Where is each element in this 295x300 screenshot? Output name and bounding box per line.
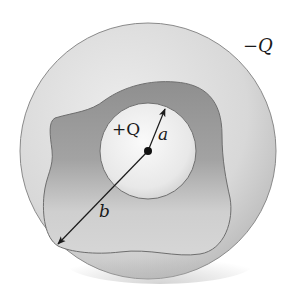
radius-b-label: b <box>99 203 110 220</box>
center-dot <box>144 147 152 155</box>
diagram-canvas: +Q a b −Q <box>0 0 295 300</box>
inner-charge-label: +Q <box>112 121 140 138</box>
outer-charge-label: −Q <box>243 37 273 55</box>
radius-a-label: a <box>158 126 168 143</box>
